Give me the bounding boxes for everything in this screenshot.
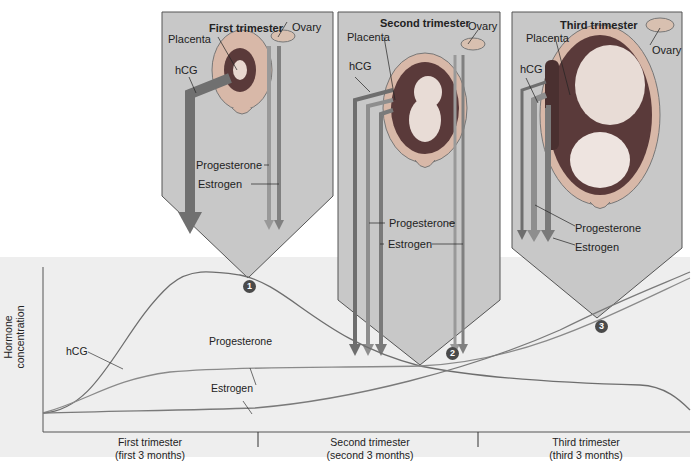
label-progesterone: Progesterone bbox=[389, 217, 455, 230]
panel-title-third-trimester: Third trimester bbox=[560, 19, 638, 32]
label-ovary: Ovary bbox=[292, 21, 321, 34]
series-label-estrogen: Estrogen bbox=[211, 382, 253, 395]
panel-third-trimester bbox=[512, 12, 682, 318]
y-axis-label-line1: Hormone bbox=[2, 292, 14, 382]
label-ovary: Ovary bbox=[468, 20, 497, 33]
label-estrogen: Estrogen bbox=[198, 178, 242, 191]
x-tick-label-first-trimester: First trimester (first 3 months) bbox=[95, 436, 205, 462]
x-tick-label-line1: Second trimester bbox=[310, 436, 430, 449]
series-label-progesterone: Progesterone bbox=[209, 335, 272, 348]
fetus-body bbox=[409, 98, 441, 142]
label-progesterone: Progesterone bbox=[575, 222, 641, 235]
label-ovary: Ovary bbox=[652, 44, 681, 57]
panel-title-first-trimester: First trimester bbox=[209, 22, 283, 35]
x-tick-label-line2: (third 3 months) bbox=[531, 449, 641, 462]
x-tick-label-line2: (second 3 months) bbox=[310, 449, 430, 462]
diagram-canvas bbox=[0, 0, 695, 473]
x-tick-label-second-trimester: Second trimester (second 3 months) bbox=[310, 436, 430, 462]
label-estrogen: Estrogen bbox=[575, 241, 619, 254]
label-hcg: hCG bbox=[520, 63, 543, 76]
estrogen-arrow bbox=[546, 108, 548, 232]
x-tick-label-line2: (first 3 months) bbox=[95, 449, 205, 462]
embryo bbox=[233, 60, 247, 80]
ovary-illustration bbox=[646, 18, 674, 32]
fetus-head bbox=[570, 132, 630, 188]
label-hcg: hCG bbox=[175, 64, 198, 77]
y-axis-label: Hormone concentration bbox=[2, 292, 26, 382]
marker-3: 3 bbox=[595, 320, 608, 333]
label-placenta: Placenta bbox=[168, 33, 211, 46]
y-axis-label-line2: concentration bbox=[14, 292, 26, 382]
panel-first-trimester bbox=[162, 12, 333, 278]
label-placenta: Placenta bbox=[347, 31, 390, 44]
label-placenta: Placenta bbox=[526, 32, 569, 45]
series-label-hcg: hCG bbox=[66, 345, 88, 358]
marker-2: 2 bbox=[446, 347, 459, 360]
label-hcg: hCG bbox=[349, 60, 372, 73]
x-tick-label-third-trimester: Third trimester (third 3 months) bbox=[531, 436, 641, 462]
fetus-body bbox=[575, 45, 645, 125]
ovary-illustration bbox=[461, 38, 485, 50]
panel-title-second-trimester: Second trimester bbox=[380, 17, 470, 30]
marker-1: 1 bbox=[243, 280, 256, 293]
x-tick-label-line1: First trimester bbox=[95, 436, 205, 449]
label-estrogen: Estrogen bbox=[388, 238, 432, 251]
label-progesterone: Progesterone bbox=[196, 159, 262, 172]
x-tick-label-line1: Third trimester bbox=[531, 436, 641, 449]
